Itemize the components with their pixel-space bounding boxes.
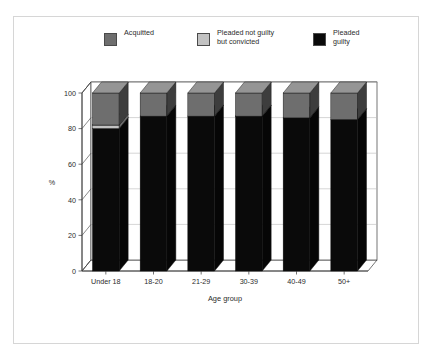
y-tick-label: 0 xyxy=(72,267,76,276)
y-tick-label: 20 xyxy=(68,231,76,240)
bar-segment xyxy=(140,82,176,116)
x-tick-label: Under 18 xyxy=(91,277,121,286)
bar-side-face xyxy=(358,109,367,271)
bar-front-face xyxy=(331,120,358,271)
bar-side-face xyxy=(215,105,224,271)
x-axis-title: Age group xyxy=(208,294,242,303)
x-tick-label: 50+ xyxy=(338,277,350,286)
bar-front-face xyxy=(92,93,119,125)
bar-segment xyxy=(188,105,224,271)
bar-front-face xyxy=(283,118,310,271)
bar-front-face xyxy=(92,125,119,129)
bar-front-face xyxy=(235,116,262,271)
bar-front-face xyxy=(235,93,262,116)
bar-segment xyxy=(92,82,128,125)
bar-segment xyxy=(235,105,271,271)
bar-front-face xyxy=(331,93,358,120)
bar-segment xyxy=(283,107,319,271)
chart-figure: Acquitted Pleaded not guilty but convict… xyxy=(0,0,434,361)
plot-left-wall xyxy=(82,82,91,271)
x-tick-label: 30-39 xyxy=(240,277,258,286)
bar-segment xyxy=(235,82,271,116)
x-tick-label: 40-49 xyxy=(287,277,305,286)
bar-segment xyxy=(331,109,367,271)
plot-area: 020406080100%Under 1818-2021-2930-3940-4… xyxy=(0,0,434,361)
bar-side-face xyxy=(262,105,271,271)
x-tick-label: 21-29 xyxy=(192,277,210,286)
y-tick-label: 80 xyxy=(68,124,76,133)
bar-segment xyxy=(140,105,176,271)
bar-front-face xyxy=(140,116,167,271)
bar-front-face xyxy=(92,129,119,271)
bar-front-face xyxy=(283,93,310,118)
bar-side-face xyxy=(310,107,319,271)
y-tick-label: 40 xyxy=(68,196,76,205)
bar-segment xyxy=(188,82,224,116)
bar-front-face xyxy=(188,93,215,116)
bar-segment xyxy=(283,82,319,118)
y-tick-label: 100 xyxy=(64,89,76,98)
y-axis-title: % xyxy=(49,178,56,187)
bar-front-face xyxy=(188,116,215,271)
bar-front-face xyxy=(140,93,167,116)
bar-segment xyxy=(331,82,367,120)
bar-segment xyxy=(92,118,128,271)
plot-svg: 020406080100%Under 1818-2021-2930-3940-4… xyxy=(0,0,434,361)
y-tick-label: 60 xyxy=(68,160,76,169)
bar-side-face xyxy=(167,105,176,271)
x-tick-label: 18-20 xyxy=(144,277,162,286)
bar-side-face xyxy=(119,118,128,271)
